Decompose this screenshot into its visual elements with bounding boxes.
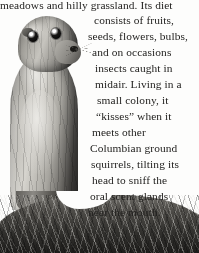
text-line: oral scent glands xyxy=(90,190,168,202)
text-line: meets other xyxy=(92,126,146,138)
text-line: small colony, it xyxy=(97,94,168,106)
text-line: meadows and hilly grassland. Its diet xyxy=(0,0,173,11)
text-line: seeds, flowers, bulbs, xyxy=(88,30,188,42)
text-line: insects caught in xyxy=(95,62,173,74)
text-line: squirrels, tilting its xyxy=(91,158,179,170)
body-text-block: meadows and hilly grassland. Its diet co… xyxy=(0,0,199,253)
text-line: consists of fruits, xyxy=(94,14,174,26)
text-line: near the mouth. xyxy=(88,206,161,218)
book-page-excerpt: meadows and hilly grassland. Its diet co… xyxy=(0,0,199,253)
text-line: head to sniff the xyxy=(92,174,167,186)
text-line: and on occasions xyxy=(92,46,171,58)
text-line: Columbian ground xyxy=(90,142,177,154)
text-line: midair. Living in a xyxy=(95,78,182,90)
text-line: “kisses” when it xyxy=(96,110,172,122)
